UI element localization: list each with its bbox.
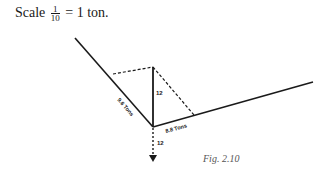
right-member-line [153,82,313,127]
left-member-line [75,38,153,127]
load-label: 12 [157,140,164,146]
vertical-label: 12 [156,90,163,96]
figure-caption: Fig. 2.10 [203,153,239,164]
arrow-down-icon [149,155,157,162]
parallelogram-top-edge [113,67,153,74]
right-member-label: 8.8 Tons [165,123,188,134]
force-diagram: 9.6 Tons 8.8 Tons 12 12 [0,0,328,179]
left-member-label: 9.6 Tons [116,97,135,117]
